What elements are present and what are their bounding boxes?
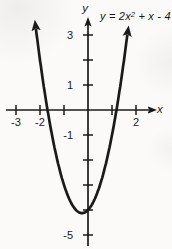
x-axis-label: x [157,104,163,116]
equation-post: + x - 4 [135,10,171,22]
tick-marks [16,35,136,235]
y-tick-label: -5 [63,230,73,241]
function-graph-figure: x y y = 2x2 + x - 4 -3-2231-1-5 [0,0,172,249]
graph-canvas [0,0,172,249]
y-axis-label: y [82,3,88,15]
x-tick-label: -2 [35,117,45,128]
x-tick-label: -3 [11,117,21,128]
equation-exponent: 2 [131,10,135,19]
y-tick-label: 1 [67,80,73,91]
equation-label: y = 2x2 + x - 4 [100,10,171,22]
y-tick-label: 3 [67,30,73,41]
x-tick-label: 2 [133,117,139,128]
y-tick-label: -1 [63,130,73,141]
equation-pre: y = 2x [100,10,131,22]
parabola-curve [36,29,128,213]
